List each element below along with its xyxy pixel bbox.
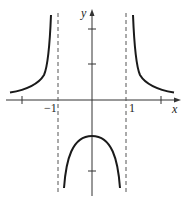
- x-tick-label-neg-one: −1: [44, 101, 57, 115]
- curve-left-branch: [10, 15, 51, 93]
- x-tick-label-one: 1: [129, 101, 135, 115]
- x-axis-label: x: [171, 102, 178, 116]
- curve-right-branch: [133, 15, 174, 93]
- function-graph: −1 1 x y: [0, 0, 185, 199]
- y-axis-label: y: [80, 6, 87, 20]
- y-axis-arrow-icon: [90, 9, 95, 16]
